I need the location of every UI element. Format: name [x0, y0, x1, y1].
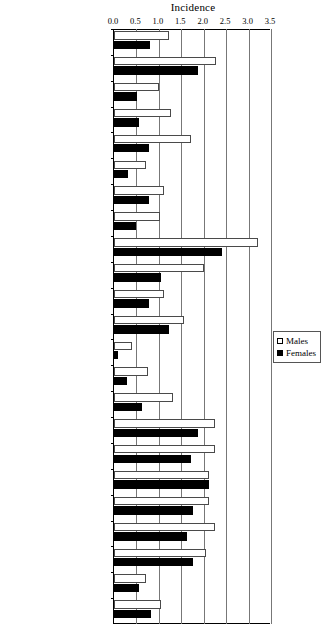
- bar-females: [114, 273, 161, 281]
- bar-females: [114, 66, 198, 74]
- bar-females: [114, 403, 142, 411]
- bar-males: [114, 31, 169, 39]
- bar-group: Central America: [114, 262, 270, 288]
- bar-males: [114, 367, 148, 375]
- bar-females: [114, 196, 149, 204]
- bar-males: [114, 264, 204, 272]
- bar-group: Eastern Asia: [114, 339, 270, 365]
- bar-males: [114, 135, 191, 143]
- bar-males: [114, 445, 215, 453]
- bar-females: [114, 455, 191, 463]
- y-axis-tick: [111, 598, 114, 599]
- bar-males: [114, 109, 171, 117]
- legend-label-males: Males: [286, 335, 308, 347]
- bar-group: Eastern Africa: [114, 132, 270, 158]
- plot-area: WorldMore developed regionsLess develope…: [113, 29, 270, 624]
- bar-group: Less developed regions: [114, 81, 270, 107]
- y-axis-tick: [111, 55, 114, 56]
- y-axis-tick: [111, 391, 114, 392]
- bar-males: [114, 419, 215, 427]
- bar-males: [114, 549, 206, 557]
- bar-males: [114, 342, 132, 350]
- y-axis-tick: [111, 184, 114, 185]
- y-axis-tick: [111, 495, 114, 496]
- x-axis-tick-labels: 0.00.51.01.52.02.53.03.5: [0, 16, 330, 29]
- bar-males: [114, 83, 159, 91]
- bar-group: Micronesia: [114, 598, 270, 624]
- bar-females: [114, 377, 127, 385]
- y-axis-tick: [111, 443, 114, 444]
- incidence-bar-chart: Incidence 0.00.51.01.52.02.53.03.5 World…: [0, 0, 330, 636]
- bar-group: World: [114, 29, 270, 55]
- y-axis-tick: [111, 158, 114, 159]
- y-axis-tick: [111, 210, 114, 211]
- bar-females: [114, 480, 209, 488]
- bar-group: MiddleAfrica: [114, 158, 270, 184]
- bar-females: [114, 506, 193, 514]
- y-axis-tick: [111, 132, 114, 133]
- legend-label-females: Females: [286, 347, 316, 359]
- bar-females: [114, 170, 128, 178]
- chart-title: Incidence: [113, 1, 273, 13]
- y-axis-tick: [111, 469, 114, 470]
- bar-females: [114, 532, 187, 540]
- gridline: [271, 29, 272, 624]
- bar-group: Northern Europe: [114, 443, 270, 469]
- bar-females: [114, 299, 149, 307]
- bar-group: Melanesia: [114, 572, 270, 598]
- y-axis-tick: [111, 365, 114, 366]
- y-axis-tick: [111, 288, 114, 289]
- bar-group: Northern America: [114, 236, 270, 262]
- bar-females: [114, 248, 222, 256]
- bar-males: [114, 497, 209, 505]
- filled-square-icon: [277, 350, 283, 356]
- bar-females: [114, 222, 136, 230]
- y-axis-tick: [111, 521, 114, 522]
- bar-group: Northern Africa: [114, 107, 270, 133]
- y-axis-tick: [111, 546, 114, 547]
- legend-item-males: Males: [277, 335, 316, 347]
- bar-group: Southern Europe: [114, 495, 270, 521]
- y-axis-tick: [111, 29, 114, 30]
- bar-group: More developed regions: [114, 55, 270, 81]
- y-axis-tick: [111, 236, 114, 237]
- y-axis-tick: [111, 262, 114, 263]
- bar-males: [114, 471, 209, 479]
- bar-group: Australia/New Zealand: [114, 546, 270, 572]
- bar-females: [114, 429, 198, 437]
- bar-males: [114, 393, 173, 401]
- bar-females: [114, 558, 193, 566]
- y-axis-tick: [111, 81, 114, 82]
- bar-group: Western Asia: [114, 417, 270, 443]
- bar-females: [114, 325, 169, 333]
- bar-males: [114, 212, 160, 220]
- x-tick-label: 3.5: [265, 16, 276, 26]
- y-axis-tick: [111, 314, 114, 315]
- chart-legend: Males Females: [273, 331, 321, 363]
- legend-item-females: Females: [277, 347, 316, 359]
- bar-females: [114, 351, 118, 359]
- bar-females: [114, 92, 137, 100]
- y-axis-tick: [111, 339, 114, 340]
- bar-females: [114, 610, 151, 618]
- bar-males: [114, 57, 216, 65]
- bar-males: [114, 290, 164, 298]
- bar-males: [114, 574, 146, 582]
- y-axis-tick: [111, 417, 114, 418]
- bar-males: [114, 523, 215, 531]
- x-tick-label: 0.0: [108, 16, 119, 26]
- open-square-icon: [277, 338, 283, 344]
- x-tick-label: 3.0: [242, 16, 253, 26]
- bar-males: [114, 186, 164, 194]
- bar-group: South America: [114, 288, 270, 314]
- bar-group: Carribean: [114, 314, 270, 340]
- bar-group: South-Central Asia: [114, 391, 270, 417]
- x-tick-label: 2.5: [220, 16, 231, 26]
- x-tick-label: 1.0: [153, 16, 164, 26]
- bar-rows: WorldMore developed regionsLess develope…: [114, 29, 270, 624]
- bar-females: [114, 118, 139, 126]
- bar-males: [114, 316, 184, 324]
- y-axis-tick: [111, 572, 114, 573]
- bar-females: [114, 144, 149, 152]
- bar-group: Western Africa: [114, 210, 270, 236]
